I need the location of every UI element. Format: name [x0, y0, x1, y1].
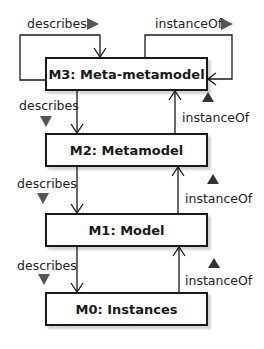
direction-up-icon [207, 174, 219, 184]
edge-label-describes: describes [19, 98, 79, 113]
edge-label-instanceof: instanceOf [185, 191, 252, 206]
layer-box-m1: M1: Model [45, 213, 208, 247]
direction-down-icon [40, 116, 52, 127]
edge-label-describes: describes [17, 176, 77, 191]
edge-label-describes: describes [17, 258, 77, 273]
direction-right-icon [87, 18, 99, 30]
direction-up-icon [202, 92, 214, 102]
edge-label-describes: describes [27, 16, 87, 31]
direction-down-icon [38, 274, 50, 285]
layer-box-m3: M3: Meta-metamodel [45, 57, 208, 91]
layer-box-m2: M2: Metamodel [45, 133, 208, 167]
edge-label-instanceof: instanceOf [185, 273, 252, 288]
edge-label-instanceof: instanceOf [182, 110, 249, 125]
layer-box-m0: M0: Instances [45, 292, 208, 326]
direction-right-icon [221, 18, 233, 30]
direction-up-icon [208, 258, 220, 268]
direction-down-icon [37, 193, 49, 204]
edge-label-instanceof: instanceOf [155, 16, 222, 31]
